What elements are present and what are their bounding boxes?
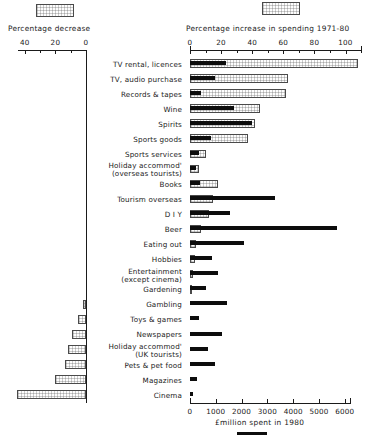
increase-tick-label-0: 0 <box>177 38 203 47</box>
category-label-7: Holiday accommod'(overseas tourists) <box>88 162 182 178</box>
bar-percentage-decrease-19 <box>68 345 86 354</box>
decrease-axis-title: Percentage decrease <box>8 24 90 33</box>
increase-tick-label-100: 100 <box>333 38 359 47</box>
category-label-1: TV, audio purchase <box>88 76 182 84</box>
bar-percentage-decrease-20 <box>65 360 86 369</box>
bar-spend-14 <box>190 271 218 275</box>
decrease-tick-30 <box>40 50 41 53</box>
category-label-10: D I Y <box>88 211 182 219</box>
category-label-main: Eating out <box>144 240 182 249</box>
bar-spend-20 <box>190 362 215 366</box>
category-label-6: Sports services <box>88 151 182 159</box>
increase-axis-title: Percentage increase in spending 1971-80 <box>186 24 349 33</box>
category-label-main: Pets & pet food <box>125 361 182 370</box>
increase-tick-20 <box>221 50 222 54</box>
spend-axis-line <box>190 403 350 404</box>
category-label-0: TV rental, licences <box>88 61 182 69</box>
spend-axis-title: £million spent in 1980 <box>215 418 304 427</box>
category-label-main: Wine <box>163 105 182 114</box>
spend-tick-label-6000: 6000 <box>330 407 360 416</box>
category-label-5: Sports goods <box>88 136 182 144</box>
category-label-main: Sports goods <box>133 135 182 144</box>
category-label-main: Newspapers <box>136 330 182 339</box>
category-label-main: Books <box>160 180 182 189</box>
legend-key-percentage-increase <box>262 2 300 15</box>
category-label-3: Wine <box>88 106 182 114</box>
increase-tick-80 <box>314 50 315 54</box>
increase-tick-60 <box>283 50 284 54</box>
increase-tick-10 <box>206 50 207 53</box>
spend-cap-end <box>350 398 351 404</box>
category-label-main: Beer <box>165 225 182 234</box>
increase-tick-50 <box>268 50 269 53</box>
decrease-tick-label-20: 20 <box>43 38 67 47</box>
bar-spend-10 <box>190 211 230 215</box>
bar-spend-8 <box>190 181 200 185</box>
category-label-main: TV rental, licences <box>113 60 182 69</box>
bar-percentage-decrease-21 <box>55 375 86 384</box>
bar-spend-22 <box>190 392 193 396</box>
bar-spend-12 <box>190 241 244 245</box>
bar-spend-11 <box>190 226 337 230</box>
bar-percentage-decrease-22 <box>17 390 86 399</box>
category-label-18: Newspapers <box>88 331 182 339</box>
bar-spend-9 <box>190 196 275 200</box>
spend-tick-4000 <box>293 399 294 404</box>
bar-spend-19 <box>190 347 208 351</box>
bar-spend-6 <box>190 151 199 155</box>
category-label-sub: (except cinema) <box>88 276 182 284</box>
category-label-8: Books <box>88 181 182 189</box>
category-label-12: Eating out <box>88 241 182 249</box>
spend-tick-3000 <box>267 399 268 404</box>
legend-key-spend-1980 <box>237 432 267 435</box>
category-label-2: Records & tapes <box>88 91 182 99</box>
spend-tick-2000 <box>242 399 243 404</box>
category-label-main: Cinema <box>154 391 182 400</box>
bar-spend-21 <box>190 377 197 381</box>
category-label-17: Toys & games <box>88 316 182 324</box>
increase-tick-label-80: 80 <box>301 38 327 47</box>
bar-percentage-increase-2 <box>190 89 286 98</box>
bar-spend-7 <box>190 166 196 170</box>
category-label-15: Gardening <box>88 286 182 294</box>
bar-spend-3 <box>190 106 234 110</box>
increase-tick-label-60: 60 <box>270 38 296 47</box>
legend-key-percentage-change <box>36 4 74 17</box>
bar-spend-4 <box>190 121 252 125</box>
decrease-tick-10 <box>71 50 72 53</box>
category-label-main: Gardening <box>143 285 182 294</box>
chart-canvas: Percentage decreasePercentage increase i… <box>0 0 378 437</box>
category-label-19: Holiday accommod'(UK tourists) <box>88 343 182 359</box>
category-label-sub: (overseas tourists) <box>88 170 182 178</box>
category-label-main: D I Y <box>165 210 182 219</box>
category-label-main: Tourism overseas <box>117 195 182 204</box>
increase-axis-line <box>190 50 361 51</box>
category-label-21: Magazines <box>88 377 182 385</box>
increase-tick-label-40: 40 <box>239 38 265 47</box>
increase-tick-label-20: 20 <box>208 38 234 47</box>
spend-cap-start <box>190 398 191 404</box>
increase-tick-70 <box>299 50 300 53</box>
category-label-main: Spirits <box>158 120 182 129</box>
decrease-tick-40 <box>25 50 26 54</box>
category-label-main: Records & tapes <box>121 90 182 99</box>
bar-spend-18 <box>190 332 222 336</box>
increase-tick-40 <box>252 50 253 54</box>
decrease-zero-rule <box>86 50 87 403</box>
category-label-main: Toys & games <box>130 315 182 324</box>
category-label-16: Gambling <box>88 301 182 309</box>
category-label-main: Magazines <box>143 376 182 385</box>
bar-spend-16 <box>190 301 227 305</box>
bar-spend-5 <box>190 136 211 140</box>
category-label-main: Sports services <box>125 150 182 159</box>
spend-tick-1000 <box>216 399 217 404</box>
category-label-14: Entertainment(except cinema) <box>88 268 182 284</box>
decrease-tick-label-0: 0 <box>74 38 98 47</box>
category-label-20: Pets & pet food <box>88 362 182 370</box>
bar-percentage-decrease-17 <box>78 315 86 324</box>
increase-tick-30 <box>237 50 238 53</box>
category-label-9: Tourism overseas <box>88 196 182 204</box>
increase-tick-90 <box>330 50 331 53</box>
category-label-11: Beer <box>88 226 182 234</box>
bar-spend-15 <box>190 286 206 290</box>
